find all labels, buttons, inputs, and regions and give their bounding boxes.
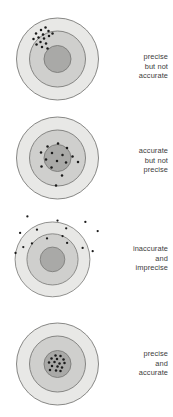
target-rings-svg xyxy=(0,201,105,305)
caption-line: precise xyxy=(102,349,168,359)
target-caption: precise and accurate xyxy=(102,349,168,378)
target-caption: accurate but not precise xyxy=(102,146,168,175)
caption-line: inaccurate xyxy=(102,244,168,254)
ring-inner xyxy=(40,247,65,272)
target-graphic xyxy=(0,201,105,305)
caption-line: accurate xyxy=(102,146,168,156)
target-caption: precise but not accurate xyxy=(102,52,168,81)
caption-line: but not xyxy=(102,62,168,72)
caption-line: accurate xyxy=(102,71,168,81)
caption-line: and xyxy=(102,254,168,264)
target-graphic xyxy=(0,99,105,203)
target-graphic xyxy=(0,0,105,104)
caption-line: precise xyxy=(102,165,168,175)
caption-line: accurate xyxy=(102,368,168,378)
accuracy-precision-figure: precise but not accurate xyxy=(0,0,173,417)
target-rings-svg xyxy=(0,0,105,104)
caption-line: and xyxy=(102,359,168,369)
target-caption: inaccurate and imprecise xyxy=(102,244,168,273)
caption-line: but not xyxy=(102,156,168,166)
ring-inner xyxy=(44,351,71,378)
target-rings-svg xyxy=(0,305,105,409)
target-panel-precise-and-accurate: precise and accurate xyxy=(0,305,173,409)
caption-line: imprecise xyxy=(102,263,168,273)
target-panel-inaccurate-and-imprecise: inaccurate and imprecise xyxy=(0,201,173,305)
target-panel-precise-not-accurate: precise but not accurate xyxy=(0,0,173,104)
target-graphic xyxy=(0,305,105,409)
target-rings-svg xyxy=(0,99,105,203)
target-panel-accurate-not-precise: accurate but not precise xyxy=(0,99,173,203)
caption-line: precise xyxy=(102,52,168,62)
